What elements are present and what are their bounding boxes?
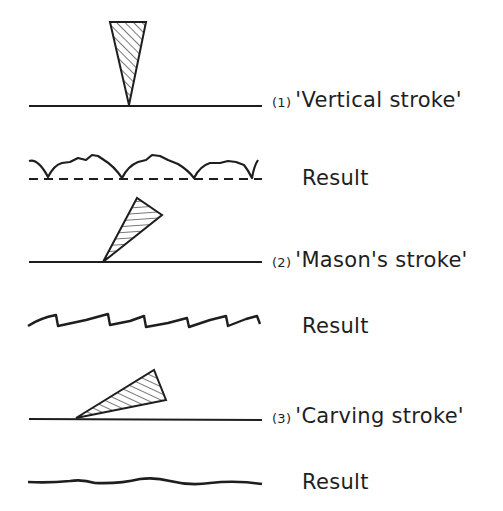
masons-stroke-result [28, 314, 260, 327]
result-label-3: Result [302, 470, 369, 494]
vertical-stroke-result [29, 155, 262, 179]
result-label-2: Result [302, 314, 369, 338]
stroke-name-1: 'Vertical stroke' [295, 88, 461, 112]
carving-stroke-result [28, 478, 262, 484]
tool-wedge-vertical [110, 22, 146, 105]
masons-stroke-figure [29, 198, 262, 262]
stroke-label-1: (1)'Vertical stroke' [272, 88, 462, 112]
scalloped-edge [29, 155, 258, 178]
stroke-index-1: (1) [272, 95, 291, 110]
stroke-name-2: 'Mason's stroke' [295, 248, 467, 272]
surface-line-3 [29, 419, 262, 420]
tool-wedge-carving [76, 370, 166, 418]
stroke-index-3: (3) [272, 411, 291, 426]
stroke-label-3: (3)'Carving stroke' [272, 404, 464, 428]
stroke-label-2: (2)'Mason's stroke' [272, 248, 468, 272]
sawtooth-edge [28, 314, 260, 327]
tool-wedge-masons [103, 198, 162, 262]
carving-stroke-figure [29, 370, 262, 420]
stroke-index-2: (2) [272, 255, 291, 270]
result-label-1: Result [302, 166, 369, 190]
smooth-edge [28, 478, 262, 484]
stroke-name-3: 'Carving stroke' [295, 404, 464, 428]
vertical-stroke-figure [29, 22, 262, 106]
